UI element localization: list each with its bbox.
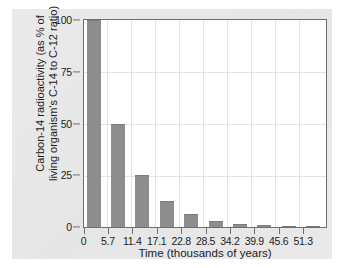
x-tick-label: 17.1 <box>147 235 166 247</box>
x-tick-label: 34.2 <box>220 235 239 247</box>
x-tick-mark <box>254 228 255 234</box>
y-axis-label: Carbon-14 radioactivity (as % of living … <box>34 0 59 194</box>
bar <box>160 201 174 227</box>
x-tick-label: 0 <box>81 235 87 247</box>
x-tick-label: 5.7 <box>101 235 115 247</box>
y-tick-mark <box>73 123 80 124</box>
x-tick-mark <box>206 228 207 234</box>
bar <box>233 224 247 227</box>
x-tick-mark <box>157 228 158 234</box>
bar <box>111 124 125 228</box>
x-tick-label: 51.3 <box>293 235 312 247</box>
x-tick-mark <box>108 228 109 234</box>
bar <box>306 226 320 227</box>
plot-area <box>83 19 327 228</box>
bar <box>282 226 296 227</box>
bar <box>135 175 149 227</box>
x-tick-label: 11.4 <box>123 235 141 247</box>
x-tick-label: 39.9 <box>245 235 264 247</box>
figure-panel: 0255075100 05.711.417.122.828.534.239.94… <box>12 9 332 259</box>
x-tick-mark <box>303 228 304 234</box>
y-axis-label-line1: Carbon-14 radioactivity (as % of <box>34 0 47 194</box>
y-tick-label: 50 <box>61 118 72 130</box>
x-tick-label: 45.6 <box>269 235 288 247</box>
y-tick-label: 25 <box>61 169 72 181</box>
gridline-horizontal <box>84 72 326 73</box>
x-tick-mark <box>230 228 231 234</box>
bar <box>257 225 271 227</box>
y-tick-mark <box>73 71 80 72</box>
y-tick-mark <box>73 226 80 227</box>
x-axis-label: Time (thousands of years) <box>83 247 327 259</box>
x-tick-mark <box>84 228 85 234</box>
bar <box>87 20 101 227</box>
x-tick-label: 22.8 <box>171 235 190 247</box>
y-tick-mark <box>73 175 80 176</box>
x-tick-mark <box>132 228 133 234</box>
y-tick-label: 75 <box>61 66 72 78</box>
y-tick-mark <box>73 19 80 20</box>
x-tick-mark <box>279 228 280 234</box>
y-tick-label: 0 <box>66 221 72 233</box>
x-tick-label: 28.5 <box>196 235 215 247</box>
bar <box>184 214 198 227</box>
bar <box>209 221 223 227</box>
y-axis-label-line2: living organism's C-14 to C-12 ratio) <box>46 0 59 194</box>
x-tick-mark <box>181 228 182 234</box>
